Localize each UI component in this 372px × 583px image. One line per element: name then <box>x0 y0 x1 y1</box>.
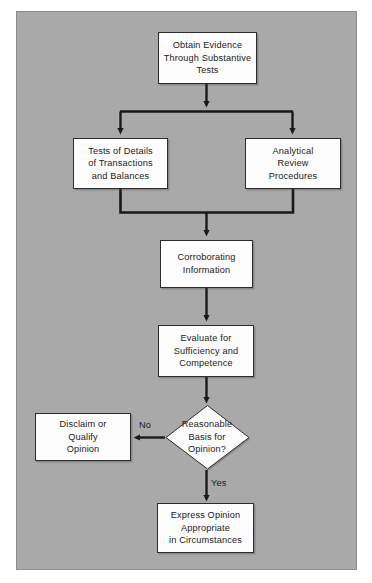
node-obtain-evidence[interactable]: Obtain Evidence Through Substantive Test… <box>158 32 257 84</box>
node-express-opinion[interactable]: Express Opinion Appropriate in Circumsta… <box>157 503 254 553</box>
node-reasonable-basis[interactable]: Reasonable Basis for Opinion? <box>163 403 251 471</box>
edge-label-yes: Yes <box>211 478 226 488</box>
node-reasonable-basis-label: Reasonable Basis for Opinion? <box>182 418 233 456</box>
node-disclaim-or-qualify[interactable]: Disclaim or Qualify Opinion <box>35 413 131 461</box>
node-disclaim-or-qualify-label: Disclaim or Qualify Opinion <box>59 418 106 456</box>
node-corroborating-information-label: Corroborating Information <box>177 251 235 276</box>
edge-label-no-text: No <box>139 420 151 430</box>
node-analytical-review-label: Analytical Review Procedures <box>269 145 317 183</box>
node-evaluate-sufficiency-label: Evaluate for Sufficiency and Competence <box>174 332 238 370</box>
flowchart-page: Obtain Evidence Through Substantive Test… <box>0 0 372 583</box>
node-corroborating-information[interactable]: Corroborating Information <box>160 240 253 288</box>
node-analytical-review[interactable]: Analytical Review Procedures <box>245 138 341 189</box>
node-tests-of-details[interactable]: Tests of Details of Transactions and Bal… <box>73 138 168 189</box>
flowchart-connectors <box>0 0 372 583</box>
connector-merge-left <box>121 188 294 213</box>
node-obtain-evidence-label: Obtain Evidence Through Substantive Test… <box>164 39 252 77</box>
edge-label-no: No <box>139 420 151 430</box>
edge-label-yes-text: Yes <box>211 478 226 488</box>
node-evaluate-sufficiency[interactable]: Evaluate for Sufficiency and Competence <box>158 325 254 377</box>
node-tests-of-details-label: Tests of Details of Transactions and Bal… <box>88 145 153 183</box>
node-express-opinion-label: Express Opinion Appropriate in Circumsta… <box>169 509 242 547</box>
